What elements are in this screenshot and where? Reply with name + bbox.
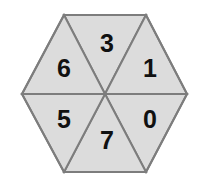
sector-label-upper-left: 6: [57, 54, 71, 82]
sector-label-top: 3: [100, 29, 114, 57]
sector-label-upper-right: 1: [143, 54, 157, 82]
sector-label-lower-left: 5: [57, 105, 71, 133]
sector-label-lower-right: 0: [143, 105, 157, 133]
sector-label-bottom: 7: [100, 126, 114, 154]
hexagon-sector-svg: 3 1 0 7 5 6: [0, 0, 198, 179]
hexagon-diagram: 3 1 0 7 5 6: [0, 0, 198, 179]
